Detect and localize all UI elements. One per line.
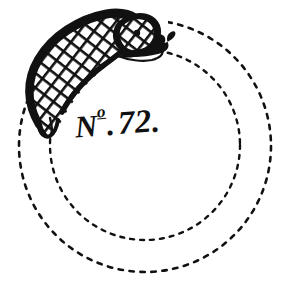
plate-artwork bbox=[0, 0, 281, 292]
plate-number-separator: . bbox=[105, 107, 116, 142]
plate-illustration: No.72. bbox=[0, 0, 281, 292]
serpent-eye bbox=[134, 30, 140, 36]
plate-number-prefix: N bbox=[74, 108, 99, 145]
plate-number-terminator: . bbox=[151, 104, 162, 139]
plate-number: No.72. bbox=[72, 84, 195, 136]
plate-number-value: 72 bbox=[117, 103, 153, 141]
